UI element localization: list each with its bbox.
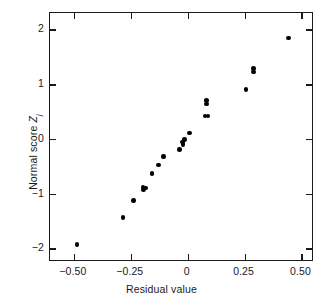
plot-area [49,12,313,261]
data-point [204,98,209,103]
y-axis-tick-right [306,248,312,249]
x-axis-tick-label: 0 [184,265,190,277]
data-point [286,36,291,41]
x-axis-tick-label: −0.25 [116,265,143,277]
data-point [143,186,148,191]
x-axis-tick-label: −0.50 [59,265,86,277]
data-point [182,137,187,142]
data-point [206,114,211,119]
data-point [121,215,126,220]
data-point [161,154,166,159]
x-axis-title: Residual value [0,283,323,295]
y-axis-variable-subscript: j [34,114,43,116]
y-axis-tick-right [306,84,312,85]
data-point [131,198,136,203]
x-axis-tick [245,254,246,260]
y-axis-tick-right [306,139,312,140]
y-axis-tick [50,248,56,249]
x-axis-tick-top [131,13,132,19]
x-axis-tick-top [301,13,302,19]
data-point [181,142,186,147]
x-axis-tick-top [245,13,246,19]
y-axis-tick [50,84,56,85]
data-point [150,171,155,176]
data-point [177,147,182,152]
data-point [75,242,80,247]
y-axis-tick-right [306,29,312,30]
y-axis-tick-label: −2 [32,241,44,253]
x-axis-tick [188,254,189,260]
y-axis-variable-symbol: Z [27,115,39,122]
data-point [244,87,249,92]
x-axis-tick [131,254,132,260]
x-axis-tick-label: 0.50 [290,265,311,277]
x-axis-tick [301,254,302,260]
y-axis-title: Normal score Zj [27,72,42,232]
normal-probability-plot-figure: −0.50−0.2500.250.50 210−1−2 Residual val… [0,0,323,303]
data-point [156,163,161,168]
y-axis-tick [50,29,56,30]
y-axis-tick-label: 2 [38,22,44,34]
data-point [187,131,192,136]
x-axis-tick [74,254,75,260]
y-axis-tick [50,139,56,140]
y-axis-tick [50,194,56,195]
x-axis-tick-top [188,13,189,19]
y-axis-tick-right [306,194,312,195]
data-point [251,66,256,71]
x-axis-tick-label: 0.25 [233,265,254,277]
y-axis-title-text: Normal score [27,122,39,189]
x-axis-tick-top [74,13,75,19]
